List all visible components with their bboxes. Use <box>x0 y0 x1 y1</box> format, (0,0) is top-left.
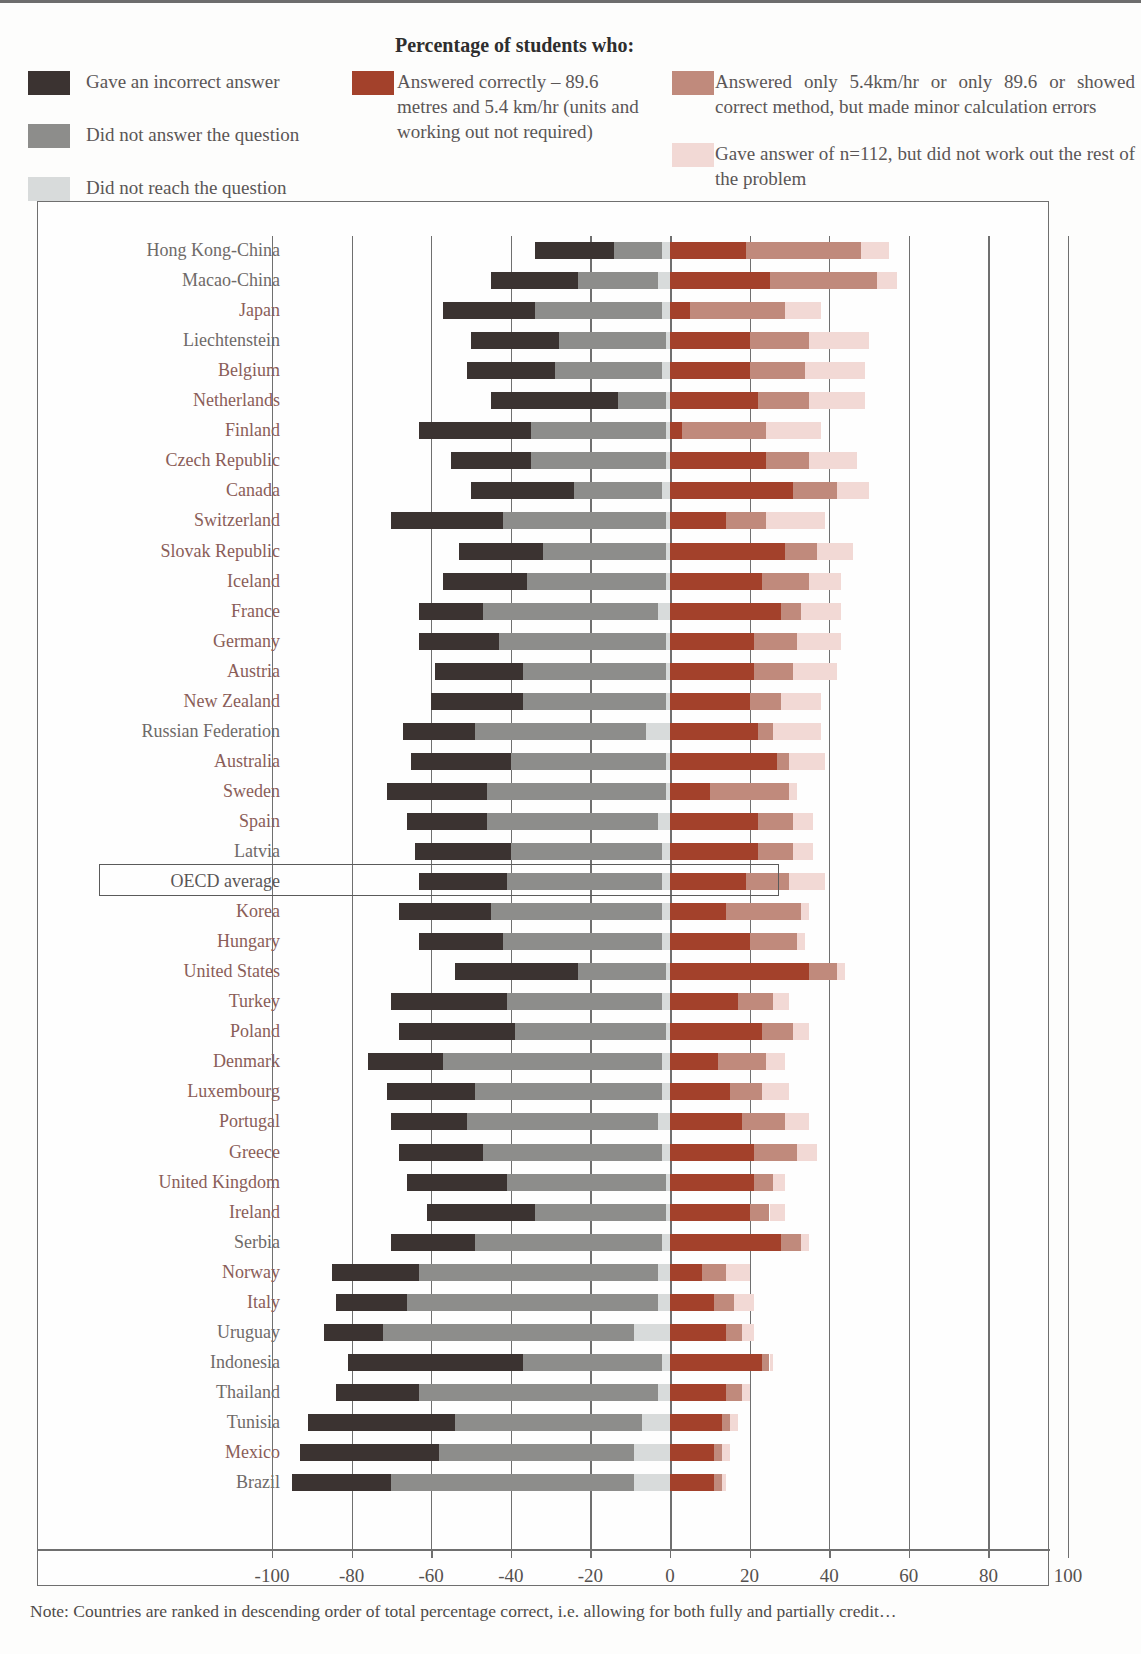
bar-segment-partial <box>766 452 810 469</box>
chart-row: Turkey <box>38 987 1050 1017</box>
chart-row: Mexico <box>38 1438 1050 1468</box>
row-label-brazil: Brazil <box>236 1472 280 1493</box>
bar-segment-partial <box>781 1234 801 1251</box>
chart-row: Czech Republic <box>38 446 1050 476</box>
bar-segment-n112 <box>797 933 805 950</box>
bar-segment-correct <box>670 993 738 1010</box>
row-label-denmark: Denmark <box>213 1051 280 1072</box>
legend-swatch-no_answer <box>28 124 70 148</box>
bar-segment-correct <box>670 1023 762 1040</box>
bar-segment-n112 <box>770 1204 786 1221</box>
bar-segment-partial <box>714 1474 722 1491</box>
bar-segment-partial <box>750 933 798 950</box>
bar-segment-incorrect <box>308 1414 455 1431</box>
bar-segment-correct <box>670 1444 714 1461</box>
x-axis-tick-label-40: 40 <box>820 1565 839 1587</box>
bar-segment-not_reached <box>662 1144 670 1161</box>
bar-segment-partial <box>726 1384 742 1401</box>
chart-row: Hong Kong-China <box>38 236 1050 266</box>
bar-segment-correct <box>670 903 726 920</box>
bar-segment-n112 <box>817 543 853 560</box>
bar-segment-partial <box>754 663 794 680</box>
bar-segment-correct <box>670 362 750 379</box>
bar-segment-correct <box>670 482 793 499</box>
x-axis-tick-60 <box>909 1549 910 1558</box>
bar-segment-correct <box>670 1324 726 1341</box>
bar-segment-n112 <box>801 603 841 620</box>
row-label-oecd-average: OECD average <box>171 871 280 892</box>
bar-segment-partial <box>762 1023 794 1040</box>
legend-label-n112: Gave answer of n=112, but did not work o… <box>715 141 1135 191</box>
bar-segment-n112 <box>785 302 821 319</box>
row-label-germany: Germany <box>213 631 280 652</box>
bar-segment-no_answer <box>503 933 662 950</box>
row-label-italy: Italy <box>247 1292 280 1313</box>
row-label-poland: Poland <box>230 1021 280 1042</box>
bar-segment-correct <box>670 843 758 860</box>
bar-segment-partial <box>754 1174 774 1191</box>
chart-row: Portugal <box>38 1107 1050 1137</box>
bar-segment-incorrect <box>415 843 511 860</box>
bar-segment-not_reached <box>646 723 670 740</box>
row-label-australia: Australia <box>214 751 280 772</box>
x-axis-tick-label-0: 0 <box>665 1565 675 1587</box>
bar-segment-no_answer <box>439 1444 634 1461</box>
chart-row: Russian Federation <box>38 717 1050 747</box>
row-label-switzerland: Switzerland <box>194 510 280 531</box>
bar-segment-correct <box>670 873 746 890</box>
bar-segment-not_reached <box>642 1414 670 1431</box>
legend-title: Percentage of students who: <box>395 34 634 57</box>
chart-row: United Kingdom <box>38 1168 1050 1198</box>
bar-segment-no_answer <box>467 1113 658 1130</box>
row-label-korea: Korea <box>236 901 280 922</box>
bar-segment-no_answer <box>503 512 666 529</box>
row-label-greece: Greece <box>229 1142 280 1163</box>
bar-segment-not_reached <box>662 482 670 499</box>
bar-segment-incorrect <box>336 1294 408 1311</box>
bar-segment-n112 <box>793 843 813 860</box>
x-axis-tick-0 <box>670 1549 671 1558</box>
chart-row: Indonesia <box>38 1348 1050 1378</box>
chart-row: Denmark <box>38 1047 1050 1077</box>
chart-row: Norway <box>38 1258 1050 1288</box>
row-label-france: France <box>231 601 280 622</box>
row-label-hungary: Hungary <box>217 931 280 952</box>
row-label-indonesia: Indonesia <box>210 1352 280 1373</box>
row-label-hong-kong-china: Hong Kong-China <box>147 240 281 261</box>
bar-segment-n112 <box>809 392 865 409</box>
bar-segment-partial <box>785 543 817 560</box>
bar-segment-incorrect <box>443 302 535 319</box>
x-axis-tick--100 <box>272 1549 273 1558</box>
bar-segment-n112 <box>742 1324 754 1341</box>
bar-segment-partial <box>758 392 810 409</box>
bar-segment-n112 <box>722 1444 730 1461</box>
legend-label-not_reached: Did not reach the question <box>86 175 386 200</box>
bar-segment-no_answer <box>535 1204 666 1221</box>
bar-segment-incorrect <box>419 422 530 439</box>
x-axis-tick-80 <box>988 1549 989 1558</box>
bar-segment-incorrect <box>387 1083 475 1100</box>
bar-segment-partial <box>742 1113 786 1130</box>
bar-segment-incorrect <box>491 272 579 289</box>
bar-segment-n112 <box>766 512 826 529</box>
x-axis-tick-40 <box>829 1549 830 1558</box>
row-label-russian-federation: Russian Federation <box>142 721 280 742</box>
bar-segment-correct <box>670 933 750 950</box>
bar-segment-n112 <box>877 272 897 289</box>
chart-row: United States <box>38 957 1050 987</box>
bar-segment-no_answer <box>507 1174 666 1191</box>
bar-segment-not_reached <box>662 993 670 1010</box>
row-label-macao-china: Macao-China <box>182 270 280 291</box>
bar-segment-correct <box>670 1144 754 1161</box>
bar-segment-correct <box>670 1264 702 1281</box>
chart-row: Latvia <box>38 837 1050 867</box>
bar-segment-no_answer <box>555 362 662 379</box>
bar-segment-no_answer <box>487 813 658 830</box>
bar-segment-no_answer <box>618 392 666 409</box>
bar-segment-partial <box>758 723 774 740</box>
bar-segment-correct <box>670 302 690 319</box>
bar-segment-correct <box>670 272 770 289</box>
row-label-czech-republic: Czech Republic <box>166 450 280 471</box>
bar-segment-incorrect <box>419 633 499 650</box>
bar-segment-incorrect <box>411 753 511 770</box>
